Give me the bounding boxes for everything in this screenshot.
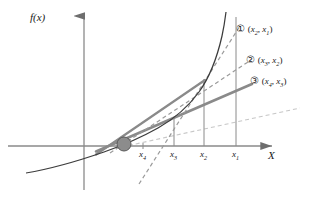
legend-item-3: ③ (x4, x3): [250, 76, 286, 88]
legend-marker-2: ②: [246, 54, 256, 65]
tick-label-x2-sub: 2: [204, 155, 207, 161]
legend-1-close-paren: ): [269, 24, 272, 34]
root-point-icon: [117, 137, 131, 151]
tick-label-x2: x2: [200, 150, 207, 161]
legend-item-2: ② (x3, x2): [246, 55, 282, 67]
y-axis-label: f(x): [30, 12, 45, 23]
tick-label-x1: x1: [232, 150, 239, 161]
secant-line-2-solid: [96, 80, 205, 155]
axes-group: [8, 16, 272, 190]
legend-item-1: ① (x2, x1): [236, 24, 272, 36]
tick-label-x4-sub: 4: [143, 155, 146, 161]
tick-label-x1-sub: 1: [236, 155, 239, 161]
legend-3-close-paren: ): [283, 76, 286, 86]
secant-line-2-dashed: [110, 62, 248, 153]
legend-marker-1: ①: [236, 23, 246, 34]
legend-marker-3: ③: [250, 75, 260, 86]
secant-method-figure: f(x) X x4 x3 x2 x1 ① (x2, x1) ② (x3, x2)…: [0, 0, 314, 198]
secant-line-1-dashed: [139, 26, 240, 184]
legend-2-close-paren: ): [279, 55, 282, 65]
tick-label-x4: x4: [139, 150, 146, 161]
tick-label-x3-sub: 3: [174, 155, 177, 161]
tick-label-x3: x3: [170, 150, 177, 161]
root-marker-group: [117, 137, 131, 151]
x-axis-label: X: [268, 150, 275, 161]
